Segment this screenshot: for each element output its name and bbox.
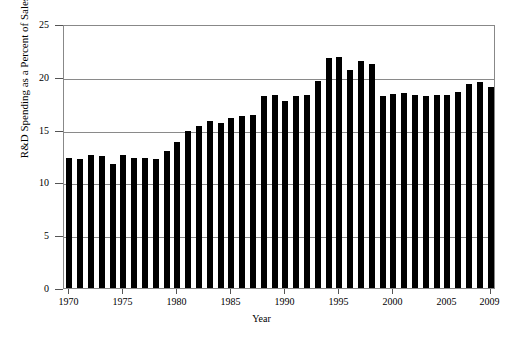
bar-1997 <box>358 61 364 288</box>
bar-1988 <box>261 96 267 288</box>
y-tick-label-25: 25 <box>39 20 49 30</box>
x-tick-mark-1980 <box>176 289 177 294</box>
bar-1987 <box>250 115 256 288</box>
bar-1980 <box>174 142 180 288</box>
x-axis-title: Year <box>0 313 523 324</box>
y-tick-mark-5 <box>55 236 63 237</box>
bar-1991 <box>293 96 299 288</box>
bar-2005 <box>444 95 450 288</box>
bar-2002 <box>412 95 418 288</box>
x-tick-label-1980: 1980 <box>156 296 196 307</box>
bar-1982 <box>196 126 202 288</box>
bar-1990 <box>282 101 288 288</box>
y-tick-label-5: 5 <box>44 231 49 241</box>
bar-1985 <box>228 118 234 288</box>
x-tick-label-2005: 2005 <box>426 296 466 307</box>
bar-1996 <box>347 70 353 288</box>
bar-2009 <box>488 87 494 288</box>
y-tick-mark-20 <box>55 78 63 79</box>
x-tick-label-1985: 1985 <box>210 296 250 307</box>
bar-1984 <box>218 123 224 288</box>
bar-1995 <box>336 57 342 288</box>
plot-area <box>63 25 495 289</box>
bar-2003 <box>423 96 429 288</box>
bar-1994 <box>326 58 332 288</box>
x-tick-label-1990: 1990 <box>264 296 304 307</box>
x-tick-label-1995: 1995 <box>318 296 358 307</box>
x-tick-mark-2000 <box>392 289 393 294</box>
y-axis-title: R&D Spending as a Percent of Sales <box>19 0 30 188</box>
bar-2006 <box>455 92 461 288</box>
y-tick-mark-0 <box>55 289 63 290</box>
bar-2001 <box>401 93 407 288</box>
bar-1970 <box>66 158 72 288</box>
x-tick-label-2009: 2009 <box>470 296 510 307</box>
y-tick-mark-25 <box>55 25 63 26</box>
bar-1989 <box>272 95 278 288</box>
bar-1981 <box>185 131 191 288</box>
bar-1973 <box>99 156 105 288</box>
y-tick-label-10: 10 <box>39 178 49 188</box>
bar-2007 <box>466 84 472 288</box>
x-tick-mark-1985 <box>230 289 231 294</box>
bar-1974 <box>110 164 116 288</box>
bar-1993 <box>315 81 321 288</box>
bar-1979 <box>164 151 170 288</box>
x-tick-mark-1990 <box>284 289 285 294</box>
y-tick-label-20: 20 <box>39 73 49 83</box>
y-tick-label-0: 0 <box>44 284 49 294</box>
y-tick-label-15: 15 <box>39 126 49 136</box>
y-tick-mark-10 <box>55 183 63 184</box>
x-tick-mark-2009 <box>490 289 491 294</box>
bar-1999 <box>380 96 386 288</box>
bar-1986 <box>239 116 245 288</box>
x-tick-mark-1995 <box>338 289 339 294</box>
bar-1983 <box>207 121 213 288</box>
x-tick-mark-1975 <box>122 289 123 294</box>
x-tick-label-1970: 1970 <box>48 296 88 307</box>
bar-series <box>64 26 494 288</box>
bar-1971 <box>77 159 83 288</box>
bar-2008 <box>477 82 483 288</box>
bar-2004 <box>434 95 440 288</box>
x-tick-label-2000: 2000 <box>372 296 412 307</box>
bar-2000 <box>390 94 396 288</box>
bar-1998 <box>369 64 375 288</box>
bar-1978 <box>153 159 159 288</box>
bar-1976 <box>131 158 137 288</box>
rd-spending-bar-chart: R&D Spending as a Percent of Sales 05101… <box>0 0 523 340</box>
bar-1992 <box>304 95 310 288</box>
bar-1977 <box>142 158 148 288</box>
bar-1972 <box>88 155 94 288</box>
bar-1975 <box>120 155 126 288</box>
y-axis: R&D Spending as a Percent of Sales 05101… <box>0 0 63 340</box>
y-tick-mark-15 <box>55 131 63 132</box>
x-tick-label-1975: 1975 <box>102 296 142 307</box>
x-tick-mark-1970 <box>68 289 69 294</box>
